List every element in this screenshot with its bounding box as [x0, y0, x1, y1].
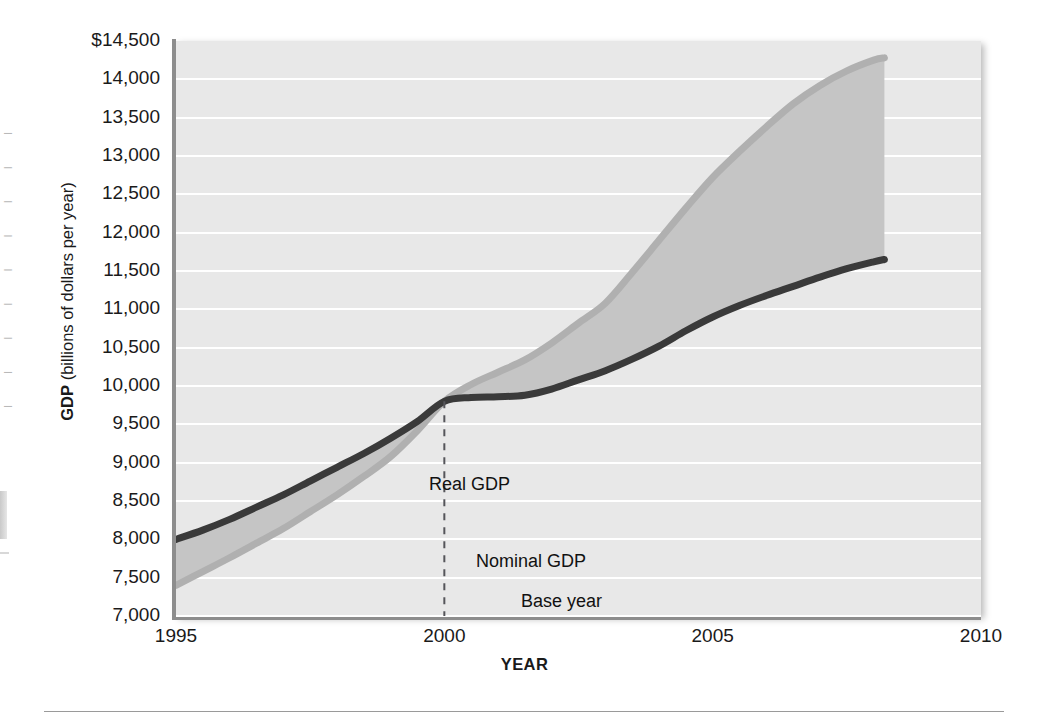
y-tick-label: 9,500	[0, 412, 168, 434]
y-tick-label: 8,500	[0, 489, 168, 511]
x-tick-label: 2000	[394, 625, 494, 647]
x-tick-label: 2010	[931, 625, 1031, 647]
x-tick-label: 1995	[126, 625, 226, 647]
annotation-nominal-gdp: Nominal GDP	[476, 551, 586, 572]
y-tick-label: 10,000	[0, 374, 168, 396]
y-tick-label: 7,500	[0, 566, 168, 588]
x-axis-title-text: YEAR	[501, 655, 548, 673]
y-tick-label: 9,000	[0, 451, 168, 473]
y-tick-label: 10,500	[0, 336, 168, 358]
annotation-real-gdp: Real GDP	[429, 474, 510, 495]
y-tick-label: 11,500	[0, 259, 168, 281]
figure-gdp-real-vs-nominal: I I I I I I I I I I I I GDP (billions of…	[0, 0, 1051, 722]
y-tick-label: $14,500	[0, 29, 168, 51]
y-tick-label: 12,500	[0, 182, 168, 204]
line-real-gdp	[176, 260, 884, 540]
y-tick-label: 11,000	[0, 297, 168, 319]
x-tick-label: 2005	[663, 625, 763, 647]
annotation-base-year: Base year	[521, 591, 602, 612]
y-axis-tick-labels: $14,50014,00013,50013,00012,50012,00011,…	[0, 0, 168, 722]
y-tick-label: 14,000	[0, 67, 168, 89]
y-tick-label: 7,000	[0, 604, 168, 626]
fill-between-band	[176, 58, 884, 585]
y-tick-label: 12,000	[0, 221, 168, 243]
series-graphics	[176, 41, 981, 616]
y-tick-label: 8,000	[0, 527, 168, 549]
plot-area: Real GDP Nominal GDP Base year	[176, 41, 981, 616]
page-bottom-rule	[44, 711, 1004, 712]
y-tick-label: 13,500	[0, 106, 168, 128]
y-tick-label: 13,000	[0, 144, 168, 166]
